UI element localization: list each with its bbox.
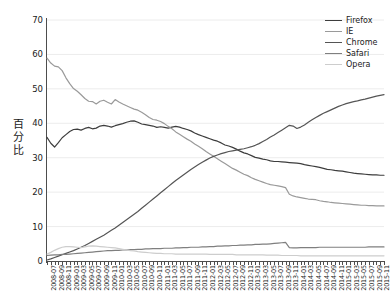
- x-axis-tick-label: 2013-07: [277, 265, 285, 291]
- x-axis-tick-label: 2008-07: [50, 265, 58, 291]
- x-axis-tick-label: 2014-09: [330, 265, 338, 291]
- x-axis-tick-label: 2009-09: [103, 265, 111, 291]
- series-line-ie: [47, 58, 384, 206]
- legend-swatch-opera: [325, 64, 342, 65]
- legend-label: Chrome: [346, 37, 377, 48]
- x-axis-tick-label: 2011-03: [171, 265, 179, 291]
- y-axis-tick-labels: 010203040506070: [12, 20, 43, 261]
- x-axis-tick-label: 2015-07: [368, 265, 376, 291]
- x-axis-tick-label: 2015-11: [383, 265, 391, 291]
- legend-label: Opera: [346, 59, 371, 70]
- x-axis-tick-label: 2008-11: [65, 265, 73, 291]
- x-axis-tick-labels: 2008-072008-092008-112009-012009-032009-…: [47, 265, 387, 306]
- x-axis-tick-label: 2010-01: [118, 265, 126, 291]
- legend-item-safari[interactable]: Safari: [325, 48, 387, 59]
- x-axis-tick-label: 2014-05: [315, 265, 323, 291]
- legend-swatch-ie: [325, 31, 342, 32]
- y-axis-tick-label: 40: [17, 118, 43, 128]
- x-axis-tick-label: 2012-05: [224, 265, 232, 291]
- legend-label: IE: [346, 26, 353, 37]
- legend-label: Firefox: [346, 15, 372, 26]
- legend: FirefoxIEChromeSafariOpera: [325, 15, 387, 70]
- legend-item-chrome[interactable]: Chrome: [325, 37, 387, 48]
- legend-item-opera[interactable]: Opera: [325, 59, 387, 70]
- y-axis-tick-label: 20: [17, 187, 43, 197]
- x-axis-tick-label: 2010-11: [156, 265, 164, 291]
- y-axis-tick-label: 60: [17, 49, 43, 59]
- legend-item-ie[interactable]: IE: [325, 26, 387, 37]
- y-axis-tick-label: 10: [17, 222, 43, 232]
- y-axis-tick-label: 30: [17, 153, 43, 163]
- x-axis-tick-mark: [47, 261, 48, 265]
- legend-label: Safari: [346, 48, 369, 59]
- legend-swatch-safari: [325, 53, 342, 54]
- series-line-chrome: [47, 95, 384, 260]
- legend-swatch-firefox: [325, 20, 342, 21]
- x-axis-tick-label: 2012-01: [209, 265, 217, 291]
- y-axis-tick-label: 50: [17, 84, 43, 94]
- legend-item-firefox[interactable]: Firefox: [325, 15, 387, 26]
- legend-swatch-chrome: [325, 42, 342, 43]
- y-axis-tick-label: 0: [17, 256, 43, 266]
- x-axis-tick-label: 2013-03: [262, 265, 270, 291]
- series-line-firefox: [47, 121, 384, 175]
- y-axis-tick-label: 70: [17, 15, 43, 25]
- series-line-safari: [47, 242, 384, 255]
